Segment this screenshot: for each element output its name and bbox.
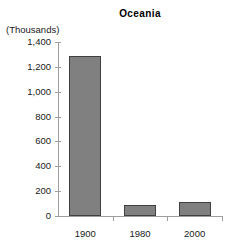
bar [69, 56, 101, 216]
x-tick-label: 1900 [58, 228, 113, 239]
y-tick-label: 400 [35, 160, 51, 171]
y-tick-label: 1,400 [27, 36, 51, 47]
y-tick-mark [55, 216, 61, 217]
bars-layer [58, 42, 222, 216]
x-tick-mark [113, 216, 114, 221]
x-tick-mark [222, 216, 223, 221]
x-tick-label: 2000 [167, 228, 222, 239]
y-axis-unit-label: (Thousands) [6, 24, 59, 35]
x-axis-line [58, 216, 222, 217]
y-tick-label: 1,200 [27, 61, 51, 72]
bar [124, 205, 156, 216]
x-tick-label: 1980 [113, 228, 168, 239]
y-tick-label: 600 [35, 135, 51, 146]
y-tick-label: 1,000 [27, 86, 51, 97]
y-tick-label: 0 [46, 210, 51, 221]
y-tick-label: 200 [35, 185, 51, 196]
bar-chart: Oceania (Thousands) 02004006008001,0001,… [0, 0, 227, 246]
chart-title: Oceania [60, 8, 220, 19]
x-tick-mark [167, 216, 168, 221]
y-tick-label: 800 [35, 111, 51, 122]
bar [179, 202, 211, 216]
